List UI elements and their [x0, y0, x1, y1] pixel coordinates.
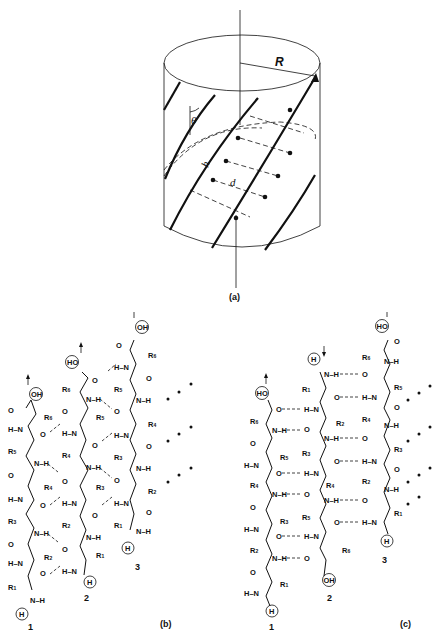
svg-text:R6: R6	[148, 351, 156, 360]
svg-text:H–N: H–N	[244, 525, 259, 534]
svg-text:R6: R6	[250, 417, 258, 426]
svg-text:R5: R5	[280, 453, 288, 462]
svg-text:R6: R6	[362, 353, 370, 362]
svg-text:N–H: N–H	[272, 490, 287, 499]
connector	[226, 161, 278, 176]
svg-text:H–N: H–N	[304, 532, 319, 541]
svg-text:O: O	[8, 471, 14, 480]
svg-text:O: O	[250, 503, 256, 512]
helix-strand-1	[164, 82, 180, 110]
panel-c-antiparallel-sheet: R6 O N–H O R5 H–N O R4 N–H O R3 H–N O R2…	[244, 312, 432, 632]
strand-1-backbone	[26, 400, 36, 590]
panel-a-caption: (a)	[229, 292, 240, 302]
svg-text:R2: R2	[44, 553, 52, 562]
strand-2-atoms: O R6 N–H O R5 H–N O R4 N–H O R3 H–N O R2…	[62, 376, 104, 576]
svg-text:O: O	[362, 496, 368, 505]
svg-text:O: O	[146, 374, 152, 383]
svg-text:R3: R3	[96, 483, 104, 492]
svg-text:N–H: N–H	[324, 496, 339, 505]
oh-terminal: OH	[137, 323, 148, 332]
svg-text:R2: R2	[62, 521, 70, 530]
svg-text:R1: R1	[8, 583, 16, 592]
svg-text:O: O	[8, 406, 14, 415]
svg-text:H–N: H–N	[62, 567, 77, 576]
svg-text:O: O	[394, 403, 400, 412]
hydrogen-bonds	[282, 374, 360, 558]
cylinder-bottom	[164, 226, 320, 247]
svg-text:N–H: N–H	[136, 464, 151, 473]
svg-text:O: O	[146, 442, 152, 451]
helix-strand-3	[170, 98, 258, 230]
svg-text:O: O	[92, 376, 98, 385]
svg-text:O: O	[334, 393, 340, 402]
svg-text:N–H: N–H	[324, 434, 339, 443]
svg-text:R3: R3	[394, 445, 402, 454]
strand-number-3: 3	[135, 562, 140, 572]
svg-text:H–N: H–N	[8, 559, 23, 568]
svg-text:O: O	[304, 554, 310, 563]
svg-text:H–N: H–N	[244, 589, 259, 598]
svg-text:O: O	[334, 518, 340, 527]
svg-text:R4: R4	[44, 483, 52, 492]
h-terminal: H	[19, 610, 24, 619]
connector	[190, 190, 250, 217]
svg-text:O: O	[334, 457, 340, 466]
svg-text:N–H: N–H	[384, 421, 399, 430]
h-terminal: H	[384, 537, 389, 546]
svg-text:N–H: N–H	[30, 596, 45, 605]
connector	[213, 180, 265, 197]
svg-text:O: O	[114, 407, 120, 416]
theta-label: θ	[191, 114, 197, 126]
svg-text:R1: R1	[114, 521, 122, 530]
svg-text:R1: R1	[280, 580, 288, 589]
svg-text:N–H: N–H	[34, 529, 49, 538]
svg-text:H–N: H–N	[62, 499, 77, 508]
strand-3-atoms: O R6 N–H O R5 H–N O R4 N–H O R3 H–N O R2…	[362, 337, 402, 527]
svg-text:N–H: N–H	[86, 533, 101, 542]
svg-text:R5: R5	[114, 385, 122, 394]
strand-2-backbone	[320, 372, 326, 576]
strand-1-atoms: O H–N O R5 N–H O H–N O R3 N–H O H–N O R1…	[8, 406, 52, 605]
svg-text:O: O	[62, 407, 68, 416]
svg-text:H–N: H–N	[8, 495, 23, 504]
svg-text:R1: R1	[302, 385, 310, 394]
svg-text:O: O	[362, 370, 368, 379]
svg-text:H–N: H–N	[304, 469, 319, 478]
strand-3-backbone	[384, 340, 390, 534]
svg-text:O: O	[114, 476, 120, 485]
svg-text:R6: R6	[44, 413, 52, 422]
svg-text:N–H: N–H	[384, 357, 399, 366]
svg-text:R3: R3	[114, 453, 122, 462]
svg-text:H–N: H–N	[244, 461, 259, 470]
svg-text:O: O	[276, 532, 282, 541]
svg-text:R6: R6	[62, 385, 70, 394]
svg-text:N–H: N–H	[384, 485, 399, 494]
residue-dots	[211, 108, 293, 221]
svg-text:O: O	[304, 490, 310, 499]
ho-terminal: HO	[377, 322, 388, 331]
svg-text:O: O	[250, 439, 256, 448]
oh-terminal: OH	[31, 390, 42, 399]
h-terminal: H	[87, 578, 92, 587]
svg-text:H–N: H–N	[8, 425, 23, 434]
strand-3-backbone	[130, 340, 136, 530]
strand-2-atoms: N–H R1 O H–N R2 O N–H R3 O H–N R4 O N–H …	[302, 370, 350, 563]
svg-text:O: O	[40, 569, 46, 578]
svg-text:O: O	[394, 465, 400, 474]
svg-text:O: O	[146, 508, 152, 517]
strand-number-1: 1	[269, 622, 274, 632]
theta-arc	[190, 108, 199, 112]
continuation-dots	[167, 383, 193, 484]
svg-text:R4: R4	[148, 420, 156, 429]
svg-text:R2: R2	[148, 487, 156, 496]
svg-text:R1: R1	[394, 509, 402, 518]
strand-number-2: 2	[327, 593, 332, 603]
connector	[250, 116, 304, 133]
svg-text:O: O	[362, 434, 368, 443]
svg-text:R5: R5	[96, 413, 104, 422]
svg-text:O: O	[250, 568, 256, 577]
strand-3-atoms: O R6 H–N O R5 N–H O R4 H–N O R3 N–H O R2…	[114, 341, 156, 536]
ho-terminal: HO	[257, 389, 268, 398]
panel-c-caption: (c)	[400, 619, 411, 629]
svg-text:O: O	[276, 405, 282, 414]
